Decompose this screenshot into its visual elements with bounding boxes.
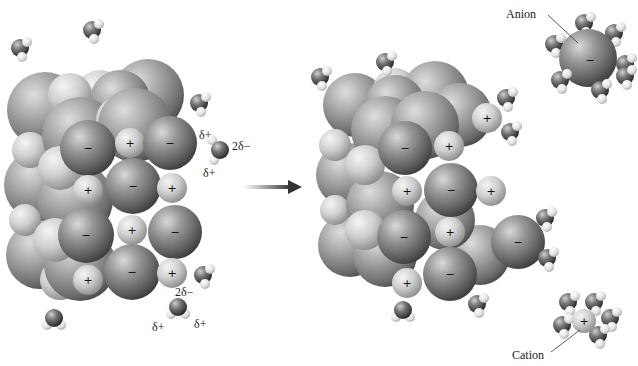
hydrated-cation: + Cation xyxy=(512,291,622,362)
plus-sign: + xyxy=(83,184,92,197)
plus-sign: + xyxy=(486,185,495,198)
plus-sign: + xyxy=(579,315,588,328)
delta-plus-label: δ+ xyxy=(194,317,207,331)
minus-sign: − xyxy=(83,142,92,155)
plus-sign: + xyxy=(83,274,92,287)
minus-sign: − xyxy=(127,266,136,279)
minus-sign: − xyxy=(400,142,409,155)
water-molecule-polar-bottom xyxy=(166,298,190,319)
plus-sign: + xyxy=(125,137,134,150)
dissolution-diagram: − + − + − + − + − + − + xyxy=(0,0,638,366)
water-molecule xyxy=(501,121,522,146)
water-molecule xyxy=(391,301,415,322)
two-delta-minus-label: 2δ− xyxy=(175,285,194,299)
diagram-canvas: − + − + − + − + − + − + xyxy=(0,0,638,366)
cation-label: Cation xyxy=(512,348,544,362)
crystal-front-layer: − + − + − + − + − + − + xyxy=(58,116,202,300)
crystal-before: − + − + − + − + − + − + xyxy=(4,59,202,301)
process-arrow xyxy=(243,180,302,194)
plus-sign: + xyxy=(167,267,176,280)
water-molecule xyxy=(190,92,211,117)
minus-sign: − xyxy=(170,226,179,239)
delta-plus-label: δ+ xyxy=(203,166,216,180)
minus-sign: − xyxy=(445,268,454,281)
hydrated-anion: − Anion xyxy=(506,7,637,104)
minus-sign: − xyxy=(513,236,522,249)
plus-sign: + xyxy=(482,112,491,125)
delta-plus-label: δ+ xyxy=(199,128,212,142)
plus-sign: + xyxy=(402,277,411,290)
minus-sign: − xyxy=(165,137,174,150)
water-molecule xyxy=(194,264,215,289)
minus-sign: − xyxy=(585,54,594,67)
water-molecule xyxy=(468,293,489,318)
minus-sign: − xyxy=(81,229,90,242)
plus-sign: + xyxy=(445,226,454,239)
plus-sign: + xyxy=(127,224,136,237)
water-molecule xyxy=(497,87,518,112)
plus-sign: + xyxy=(402,185,411,198)
water-molecule xyxy=(11,37,32,62)
delta-plus-label: δ+ xyxy=(152,320,165,334)
minus-sign: − xyxy=(128,180,137,193)
water-molecule xyxy=(83,19,104,44)
plus-sign: + xyxy=(444,140,453,153)
plus-sign: + xyxy=(167,182,176,195)
minus-sign: − xyxy=(399,231,408,244)
water-molecule xyxy=(42,309,66,330)
two-delta-minus-label: 2δ− xyxy=(232,139,251,153)
anion-label: Anion xyxy=(506,7,536,21)
minus-sign: − xyxy=(446,184,455,197)
